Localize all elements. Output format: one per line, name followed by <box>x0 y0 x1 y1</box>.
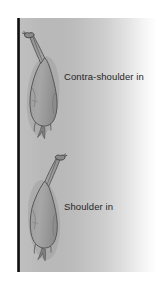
neck <box>45 157 60 186</box>
neck <box>30 35 45 64</box>
head <box>24 33 34 38</box>
dressage-position-figure: Contra-shoulder in Shoulder in <box>0 0 157 286</box>
label-shoulder-in: Shoulder in <box>64 201 113 212</box>
ears <box>22 31 25 33</box>
label-contra-shoulder-in: Contra-shoulder in <box>64 71 144 82</box>
ears <box>64 154 67 156</box>
head <box>55 155 65 160</box>
horse-contra-shoulder-in <box>16 30 72 142</box>
